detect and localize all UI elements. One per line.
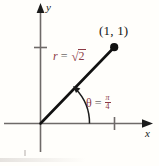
angle-variable: θ: [86, 96, 92, 110]
point-label: (1, 1): [99, 24, 128, 37]
figure-canvas: [0, 0, 159, 166]
scan-artifact-mark: [24, 150, 26, 156]
x-axis-label: x: [145, 128, 150, 139]
radius-variable: r: [53, 49, 58, 63]
pi-over-four-fraction: π 4: [105, 94, 111, 112]
square-root-icon: √2: [70, 49, 85, 63]
radius-label: r = √2: [53, 49, 86, 63]
scan-artifact-smudge: [0, 158, 86, 162]
angle-equals-sign: =: [95, 96, 102, 110]
y-axis-label: y: [46, 2, 51, 13]
fraction-denominator: 4: [105, 103, 111, 111]
angle-label: θ = π 4: [86, 95, 111, 113]
polar-coordinate-figure: y x (1, 1) r = √2 θ = π 4: [0, 0, 159, 166]
data-point-1-1: [110, 43, 118, 51]
radius-equals-sign: =: [61, 49, 68, 63]
radicand: 2: [78, 49, 86, 62]
y-axis-arrowhead: [37, 3, 45, 13]
